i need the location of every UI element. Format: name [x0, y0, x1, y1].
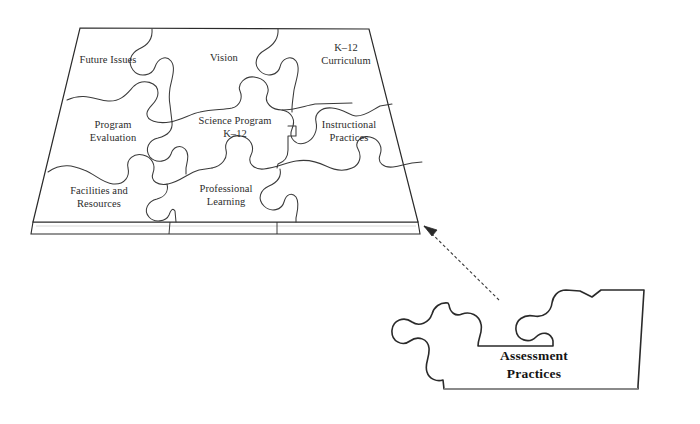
assessment-arrow: [424, 226, 499, 300]
assessment-arrow-line: [424, 226, 499, 300]
diagram-canvas: Future Issues Vision K–12 Curriculum Pro…: [0, 0, 700, 424]
assessment-practices-label: Assessment Practices: [466, 347, 602, 382]
board-outline: [33, 28, 418, 222]
board-base-front: [31, 222, 420, 234]
assessment-arrow-head: [424, 226, 437, 236]
board-trapezoid: [33, 28, 418, 222]
